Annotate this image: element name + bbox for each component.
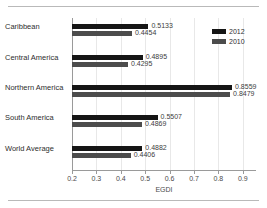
bar-row: 0.8559 xyxy=(72,85,255,90)
legend-label: 2012 xyxy=(229,28,245,35)
bar-2010 xyxy=(72,31,132,36)
x-tick-label: 0.3 xyxy=(92,175,102,182)
bar-value-label: 0.4895 xyxy=(146,53,167,60)
bar-value-label: 0.4295 xyxy=(131,60,152,67)
x-tick-label: 0.8 xyxy=(214,175,224,182)
bar-row: 0.4295 xyxy=(72,62,255,67)
bar-value-label: 0.4869 xyxy=(145,120,166,127)
chart-legend: 20122010 xyxy=(212,27,245,47)
bar-group: World Average0.48820.4406 xyxy=(0,140,267,170)
x-tick-mark xyxy=(218,170,219,174)
legend-label: 2010 xyxy=(229,38,245,45)
x-axis-title: EGDI xyxy=(72,186,256,193)
bar-2012 xyxy=(72,85,232,90)
bar-value-label: 0.5507 xyxy=(161,113,182,120)
bar-value-label: 0.5133 xyxy=(151,22,172,29)
x-tick-mark xyxy=(170,170,171,174)
bar-row: 0.8479 xyxy=(72,92,255,97)
bar-group: South America0.55070.4869 xyxy=(0,109,267,139)
bar-row: 0.4406 xyxy=(72,153,255,158)
x-tick-label: 0.7 xyxy=(189,175,199,182)
x-tick-mark xyxy=(145,170,146,174)
bar-value-label: 0.4406 xyxy=(134,151,155,158)
bottom-divider xyxy=(8,200,259,201)
category-label: Central America xyxy=(5,53,69,62)
x-tick-mark xyxy=(72,170,73,174)
x-tick-label: 0.2 xyxy=(67,175,77,182)
bar-group: Central America0.48950.4295 xyxy=(0,48,267,78)
category-label: Caribbean xyxy=(5,22,69,31)
bar-2012 xyxy=(72,146,142,151)
bar-row: 0.4895 xyxy=(72,55,255,60)
bar-2010 xyxy=(72,62,128,67)
x-tick-mark xyxy=(243,170,244,174)
bar-row: 0.4882 xyxy=(72,146,255,151)
bar-group: Northern America0.85590.8479 xyxy=(0,79,267,109)
bar-value-label: 0.8479 xyxy=(233,90,254,97)
top-divider xyxy=(8,6,259,7)
legend-item[interactable]: 2010 xyxy=(212,37,245,46)
legend-item[interactable]: 2012 xyxy=(212,27,245,36)
chart-figure: 0.20.30.40.50.60.70.80.9 EGDI Caribbean0… xyxy=(0,0,267,208)
x-tick-label: 0.5 xyxy=(140,175,150,182)
legend-swatch-icon xyxy=(212,29,226,34)
bar-value-label: 0.4882 xyxy=(145,144,166,151)
category-label: World Average xyxy=(5,144,69,153)
bar-value-label: 0.8559 xyxy=(235,83,256,90)
legend-swatch-icon xyxy=(212,39,226,44)
category-label: Northern America xyxy=(5,83,69,92)
bar-2010 xyxy=(72,92,230,97)
bar-value-label: 0.4454 xyxy=(135,29,156,36)
bar-2010 xyxy=(72,153,131,158)
x-tick-mark xyxy=(194,170,195,174)
bar-2010 xyxy=(72,122,142,127)
x-tick-mark xyxy=(121,170,122,174)
category-label: South America xyxy=(5,113,69,122)
x-tick-label: 0.9 xyxy=(238,175,248,182)
x-tick-label: 0.6 xyxy=(165,175,175,182)
bar-row: 0.4869 xyxy=(72,122,255,127)
x-tick-label: 0.4 xyxy=(116,175,126,182)
x-tick-mark xyxy=(96,170,97,174)
x-axis-line xyxy=(72,170,256,171)
